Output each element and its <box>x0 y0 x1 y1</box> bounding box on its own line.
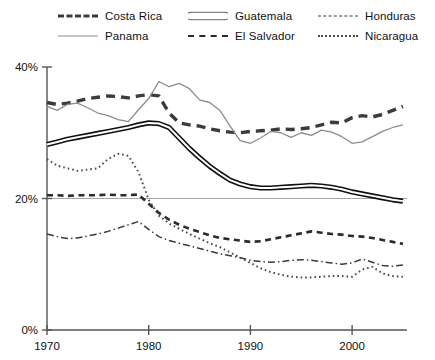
x-tick-label: 1970 <box>34 340 60 352</box>
series-line-el-salvador <box>47 195 403 244</box>
y-tick-label: 0% <box>21 324 38 336</box>
x-tick-label: 2000 <box>339 340 365 352</box>
y-tick-label: 20% <box>15 193 38 205</box>
x-tick-label: 1980 <box>136 340 162 352</box>
series-line-honduras <box>47 222 403 267</box>
x-tick-label: 1990 <box>238 340 264 352</box>
chart-figure: Costa RicaPanamaGuatemalaEl SalvadorHond… <box>0 0 435 360</box>
y-tick-label: 40% <box>15 61 38 73</box>
plot-area: 40%20%0%1970198019902000 <box>0 0 435 360</box>
line-chart-svg: 40%20%0%1970198019902000 <box>0 0 435 360</box>
series-line-nicaragua <box>47 154 403 278</box>
series-line-guatemala-outer <box>47 123 403 201</box>
